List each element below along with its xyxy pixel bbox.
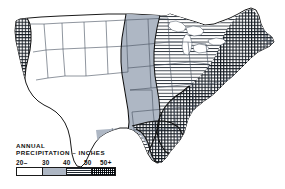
precipitation-map: ANNUAL PRECIPITATION – INCHES 20– 30 40 … xyxy=(0,0,285,189)
us-map-svg xyxy=(0,0,285,189)
